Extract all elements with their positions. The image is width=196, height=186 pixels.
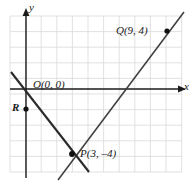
point-r-label: R: [12, 102, 19, 113]
y-axis-label: y: [29, 2, 34, 13]
point-r-marker: [23, 106, 28, 111]
point-q-label: Q(9, 4): [116, 25, 148, 36]
origin-label: O(0, 0): [33, 79, 65, 90]
point-p-label: P(3, –4): [80, 148, 116, 159]
point-q-marker: [164, 28, 169, 33]
point-p-marker: [69, 151, 75, 157]
x-axis-label: x: [184, 81, 189, 92]
figure-canvas: Q(9, 4) O(0, 0) P(3, –4) R x y: [0, 0, 196, 186]
